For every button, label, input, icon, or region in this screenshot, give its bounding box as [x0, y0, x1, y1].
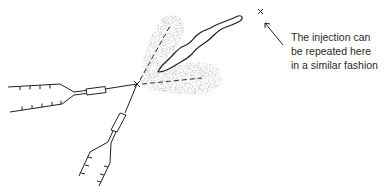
annotation-line-2: be repeated here — [291, 44, 390, 58]
annotation-text: The injection can be repeated here in a … — [291, 30, 390, 72]
annotation-arrow — [265, 23, 283, 45]
syringe-lower — [79, 84, 137, 186]
repeat-point-marker — [258, 9, 263, 14]
annotation-line-1: The injection can — [291, 30, 390, 44]
annotation-line-3: in a similar fashion — [291, 58, 390, 72]
syringe-left — [8, 84, 137, 112]
